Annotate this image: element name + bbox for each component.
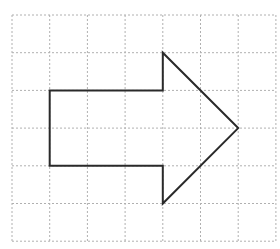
grid-arrow-diagram: [0, 0, 280, 249]
dotted-grid: [12, 15, 276, 241]
